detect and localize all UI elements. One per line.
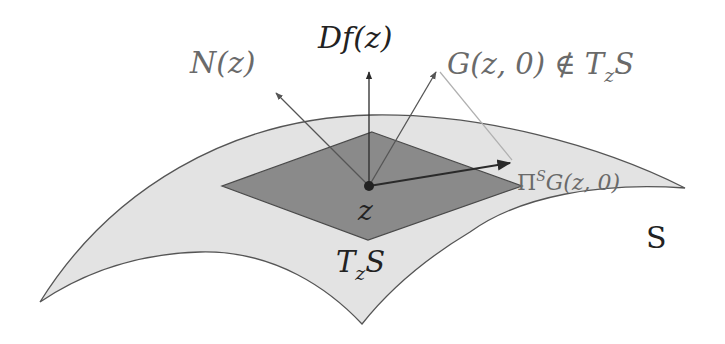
projection-pi: Π: [517, 170, 536, 195]
label-projection: ΠSG(z, 0): [517, 168, 620, 195]
tangent-space-diagram: Df(z) N(z) G(z, 0) ∉ TzS ΠSG(z, 0) z TzS…: [0, 0, 725, 344]
label-df: Df(z): [317, 20, 392, 55]
g-vector-main: G(z, 0) ∉ T: [447, 47, 607, 81]
label-surface: S: [646, 220, 667, 255]
g-vector-tail: S: [614, 47, 634, 81]
label-point-z: z: [357, 194, 373, 227]
point-z: [364, 181, 374, 191]
label-g-vector: G(z, 0) ∉ TzS: [447, 47, 634, 86]
projection-sup: S: [536, 168, 546, 184]
tangent-S: S: [365, 245, 385, 279]
label-normal: N(z): [189, 45, 255, 80]
projection-rest: G(z, 0): [546, 170, 620, 195]
